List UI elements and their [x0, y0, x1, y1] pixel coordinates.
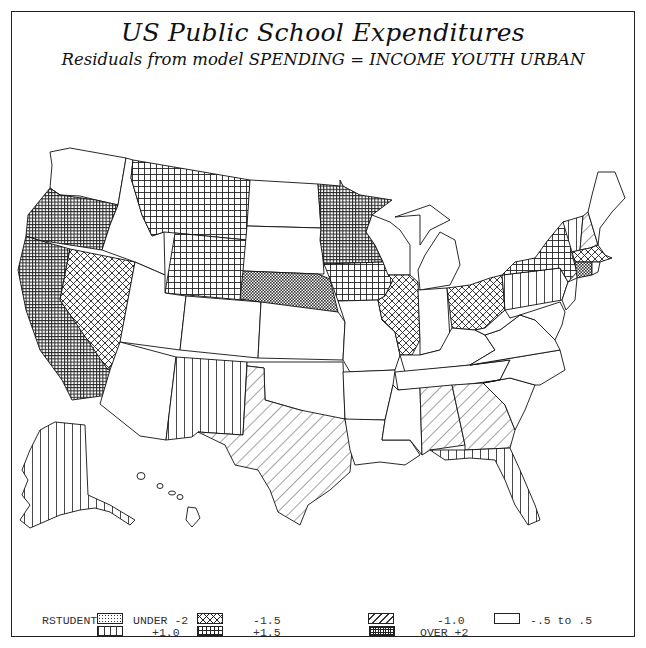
state-mt — [131, 160, 250, 240]
state-sd — [243, 226, 324, 274]
us-choropleth-map — [0, 0, 646, 648]
state-ri — [592, 262, 600, 275]
state-ak — [20, 422, 135, 528]
state-ct — [575, 262, 592, 278]
state-co — [180, 296, 261, 358]
state-wy — [165, 233, 247, 300]
state-hi — [137, 473, 200, 528]
state-fl — [430, 448, 540, 525]
state-nm — [166, 357, 247, 440]
state-nd — [247, 180, 321, 228]
